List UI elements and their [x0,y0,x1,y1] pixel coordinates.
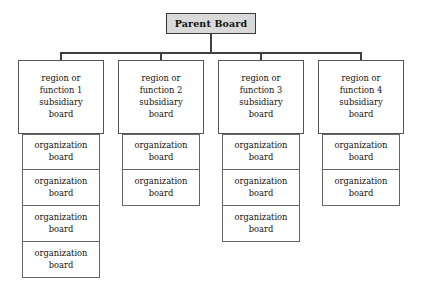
organization-board: organization board [222,206,300,242]
organization-label-line: board [49,152,74,164]
organization-label-line: organization [235,140,288,152]
organization-label-line: organization [335,140,388,152]
subsidiary-label-line: board [349,109,374,121]
organization-label-line: board [49,188,74,200]
subsidiary-label-line: board [149,109,174,121]
subsidiary-label-line: subsidiary [39,97,82,109]
subsidiary-label-line: region or [242,73,281,85]
organization-label-line: board [349,152,374,164]
subsidiary-label-line: subsidiary [339,97,382,109]
organization-board: organization board [122,134,200,170]
organization-label-line: organization [235,212,288,224]
subsidiary-label-line: board [249,109,274,121]
subsidiary-board-2: region or function 2 subsidiary board [118,60,204,134]
subsidiary-board-3: region or function 3 subsidiary board [218,60,304,134]
branch-column-2: region or function 2 subsidiary board or… [118,60,204,206]
parent-board-label: Parent Board [175,18,248,29]
organization-label-line: organization [35,212,88,224]
organization-label-line: board [49,224,74,236]
subsidiary-label-line: function 2 [140,85,183,97]
subsidiary-label-line: function 1 [40,85,83,97]
subsidiary-board-4: region or function 4 subsidiary board [318,60,404,134]
organization-label-line: organization [135,176,188,188]
subsidiary-label-line: region or [342,73,381,85]
organization-board: organization board [22,134,100,170]
branch-column-4: region or function 4 subsidiary board or… [318,60,404,206]
subsidiary-label-line: region or [42,73,81,85]
organization-board: organization board [222,170,300,206]
organization-board: organization board [122,170,200,206]
subsidiary-board-1: region or function 1 subsidiary board [18,60,104,134]
organization-label-line: organization [35,176,88,188]
branch-column-1: region or function 1 subsidiary board or… [18,60,104,278]
organization-label-line: organization [235,176,288,188]
organization-stack-4: organization board organization board [322,134,400,206]
organization-label-line: board [349,188,374,200]
organization-label-line: board [149,152,174,164]
organization-board: organization board [22,206,100,242]
org-chart-diagram: Parent Board region or function 1 subsid… [0,0,423,300]
subsidiary-label-line: function 4 [340,85,383,97]
organization-label-line: organization [335,176,388,188]
subsidiary-label-line: subsidiary [139,97,182,109]
organization-label-line: organization [35,248,88,260]
subsidiary-label-line: function 3 [240,85,283,97]
organization-label-line: board [49,260,74,272]
organization-board: organization board [22,242,100,278]
subsidiary-label-line: board [49,109,74,121]
organization-label-line: organization [35,140,88,152]
organization-stack-3: organization board organization board or… [222,134,300,242]
parent-board-node: Parent Board [166,13,256,34]
organization-label-line: board [249,152,274,164]
organization-board: organization board [222,134,300,170]
subsidiary-label-line: region or [142,73,181,85]
organization-board: organization board [22,170,100,206]
organization-board: organization board [322,134,400,170]
branch-column-3: region or function 3 subsidiary board or… [218,60,304,242]
organization-label-line: board [249,224,274,236]
subsidiary-label-line: subsidiary [239,97,282,109]
organization-label-line: board [149,188,174,200]
connector-horizontal-bus [60,52,361,54]
organization-label-line: organization [135,140,188,152]
organization-stack-2: organization board organization board [122,134,200,206]
organization-board: organization board [322,170,400,206]
organization-label-line: board [249,188,274,200]
organization-stack-1: organization board organization board or… [22,134,100,278]
connector-parent-stem [210,34,212,53]
